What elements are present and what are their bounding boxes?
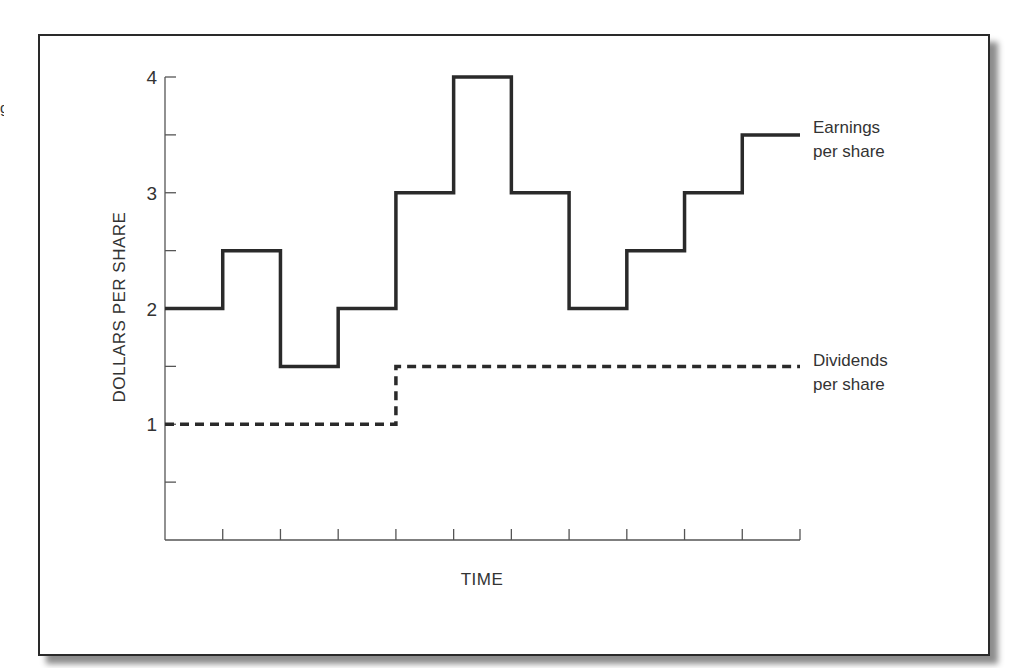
earnings-per-share-line xyxy=(165,77,800,366)
legend-dividends-line2: per share xyxy=(813,375,885,394)
dividends-per-share-line xyxy=(165,366,800,424)
legend-earnings-line1: Earnings xyxy=(813,118,880,137)
legend-dividends-line1: Dividends xyxy=(813,351,888,370)
y-axis-ticks: 1234 xyxy=(146,67,176,482)
x-axis-title: TIME xyxy=(461,570,504,589)
y-tick-label: 4 xyxy=(146,67,157,88)
legend-earnings-line2: per share xyxy=(813,142,885,161)
x-axis-ticks xyxy=(223,529,800,540)
y-tick-label: 3 xyxy=(146,183,157,204)
y-tick-label: 2 xyxy=(146,299,157,320)
step-chart: 1234 DOLLARS PER SHARE TIME Earnings per… xyxy=(0,0,1032,668)
axes xyxy=(165,77,800,540)
y-tick-label: 1 xyxy=(146,414,157,435)
y-axis-title: DOLLARS PER SHARE xyxy=(110,212,129,403)
